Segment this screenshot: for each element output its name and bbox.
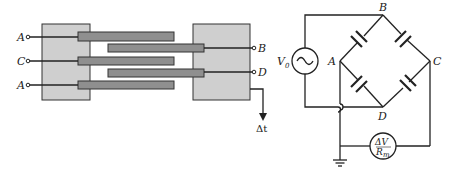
finger-c [78, 57, 174, 65]
finger-a-top [78, 32, 174, 41]
source-subscript: 0 [285, 62, 290, 70]
right-electrode-block [193, 24, 250, 100]
terminal-label-b: B [257, 42, 266, 55]
arrow-down-icon [259, 113, 267, 121]
meter-r: R [375, 147, 383, 157]
capacitor-cd [383, 61, 430, 107]
meter-r-subscript: m [383, 151, 390, 159]
terminal-label-a-bottom: A [16, 79, 25, 92]
ground-icon [333, 160, 347, 166]
meter-delta-v: ΔV [374, 137, 389, 147]
terminal-label-c: C [17, 55, 26, 68]
capacitor-ab [340, 15, 383, 61]
interdigitated-capacitor: A C A B D Δt [16, 24, 267, 134]
capacitor-bc [383, 15, 430, 61]
diagram-canvas: A C A B D Δt V 0 [0, 0, 457, 175]
finger-d [108, 69, 204, 77]
node-label-b: B [378, 1, 387, 14]
terminal-label-a-top: A [16, 31, 25, 44]
delta-t-label: Δt [256, 123, 267, 134]
capacitor-ad [340, 61, 383, 107]
node-label-c: C [433, 55, 442, 68]
finger-a-bottom [78, 81, 174, 89]
node-label-a: A [327, 55, 336, 68]
finger-b [108, 44, 204, 52]
bridge-circuit: V 0 B A C D [277, 1, 442, 166]
node-label-d: D [377, 110, 387, 123]
terminal-label-d: D [257, 66, 267, 79]
